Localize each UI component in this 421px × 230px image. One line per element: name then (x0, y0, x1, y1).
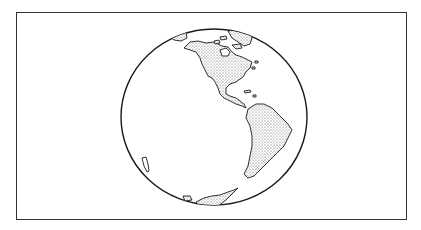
globe-illustration (0, 0, 421, 230)
